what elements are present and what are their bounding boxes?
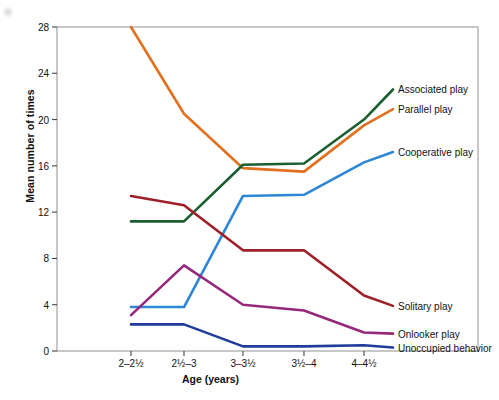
y-tick-label: 16 bbox=[23, 160, 49, 171]
x-tick-label: 3–3½ bbox=[208, 358, 278, 369]
y-tick-label: 4 bbox=[23, 299, 49, 310]
series-label-cooperative-play: Cooperative play bbox=[398, 146, 473, 157]
y-tick-label: 8 bbox=[23, 253, 49, 264]
series-label-onlooker-play: Onlooker play bbox=[398, 328, 460, 339]
x-axis-title: Age (years) bbox=[57, 373, 364, 385]
y-tick-label: 28 bbox=[23, 22, 49, 33]
y-tick-label: 20 bbox=[23, 114, 49, 125]
series-label-solitary-play: Solitary play bbox=[398, 300, 452, 311]
figure-container: Mean number of times Age (years) 0481216… bbox=[0, 0, 499, 400]
y-tick-label: 24 bbox=[23, 68, 49, 79]
y-tick-label: 0 bbox=[23, 346, 49, 357]
series-label-parallel-play: Parallel play bbox=[398, 104, 452, 115]
line-chart-plot bbox=[0, 0, 499, 400]
series-label-unoccupied-behavior: Unoccupied behavior bbox=[398, 342, 492, 353]
series-label-associated-play: Associated play bbox=[398, 84, 468, 95]
y-tick-label: 12 bbox=[23, 207, 49, 218]
x-tick-label: 4–4½ bbox=[329, 358, 399, 369]
